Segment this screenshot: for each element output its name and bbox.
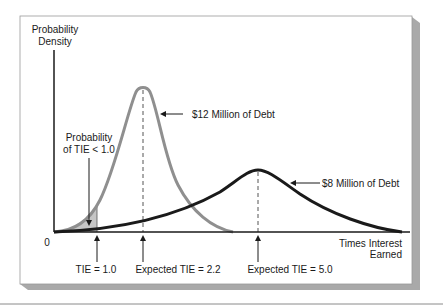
prob-label-line2: of TIE < 1.0	[63, 144, 115, 155]
origin-label: 0	[44, 237, 50, 248]
label-expected-5-0: Expected TIE = 5.0	[247, 264, 333, 275]
label-expected-2-2: Expected TIE = 2.2	[135, 264, 221, 275]
label-12-million: $12 Million of Debt	[192, 109, 275, 120]
x-axis-label-line1: Times Interest	[339, 238, 402, 249]
y-axis-label-line2: Density	[38, 36, 71, 47]
x-axis-label-line2: Earned	[370, 249, 402, 260]
prob-label-line1: Probability	[66, 132, 113, 143]
chart-figure: Probability Density 0 Times Interest Ear…	[0, 0, 443, 307]
label-8-million: $8 Million of Debt	[322, 178, 399, 189]
label-tie-1: TIE = 1.0	[76, 264, 117, 275]
y-axis-label-line1: Probability	[32, 24, 79, 35]
